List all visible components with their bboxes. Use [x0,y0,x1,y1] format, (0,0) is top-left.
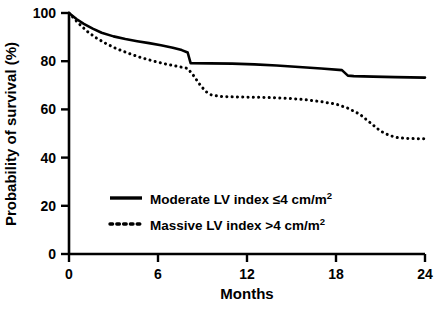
y-tick-label: 60 [40,101,56,117]
x-axis-ticks: 06121824 [65,254,433,282]
y-tick-label: 0 [48,246,56,262]
x-tick-label: 24 [417,266,433,282]
survival-chart-figure: 020406080100 06121824 Probability of sur… [0,0,441,309]
legend-label-moderate: Moderate LV index ≤4 cm/m2 [150,190,332,207]
y-axis-ticks: 020406080100 [33,5,69,262]
y-axis-title: Probability of survival (%) [2,42,19,226]
chart-canvas: 020406080100 06121824 Probability of sur… [0,0,441,309]
y-tick-label: 100 [33,5,57,21]
y-tick-label: 40 [40,150,56,166]
x-tick-label: 6 [154,266,162,282]
y-tick-label: 80 [40,53,56,69]
y-tick-label: 20 [40,198,56,214]
series-line-moderate [69,13,425,78]
x-tick-label: 18 [328,266,344,282]
x-tick-label: 12 [239,266,255,282]
x-tick-label: 0 [65,266,73,282]
x-axis-title: Months [220,285,273,302]
chart-series-group [69,13,425,139]
legend-label-massive: Massive LV index >4 cm/m2 [150,216,325,233]
chart-legend: Moderate LV index ≤4 cm/m2 Massive LV in… [110,190,332,233]
